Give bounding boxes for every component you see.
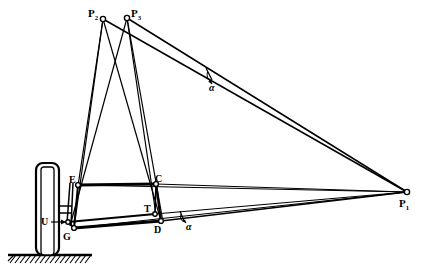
tire-inner-rim (41, 167, 54, 255)
ground-group (8, 255, 92, 263)
label-P3: P3 (131, 8, 141, 22)
tire-group (36, 163, 59, 255)
label-U: U (41, 217, 48, 227)
ray-e-p1 (78, 185, 407, 192)
joint-G (72, 226, 77, 231)
label-P1: P1 (399, 198, 409, 212)
label-D: D (154, 225, 161, 235)
axle-group (59, 183, 73, 226)
ray-t-p1 (155, 192, 407, 214)
label-G: G (63, 232, 71, 242)
label-alpha-upper: α (209, 83, 215, 93)
joint-E (76, 183, 81, 188)
label-C: C (155, 174, 162, 184)
label-alpha-lower: α (186, 222, 192, 232)
rays-to-p1-group (74, 18, 407, 228)
link-e-c (78, 184, 156, 185)
joint-P1 (404, 189, 409, 194)
joint-P2 (100, 16, 105, 21)
joint-U (66, 220, 70, 224)
instant-centre-rays-group (70, 18, 163, 228)
label-T: T (144, 204, 151, 214)
joint-D (159, 219, 164, 224)
joint-T (153, 212, 157, 216)
kingpin-axis (67, 183, 70, 223)
link-g-d (74, 221, 161, 228)
label-E: E (69, 175, 76, 185)
ray-p3-p1 (127, 18, 407, 192)
link-c-t (155, 184, 156, 214)
diagram-canvas: P1 P2 P3 E C T D G U α α (0, 0, 424, 279)
joint-P3 (124, 15, 129, 20)
label-P2: P2 (88, 8, 98, 22)
ray-p2-e (78, 19, 103, 186)
